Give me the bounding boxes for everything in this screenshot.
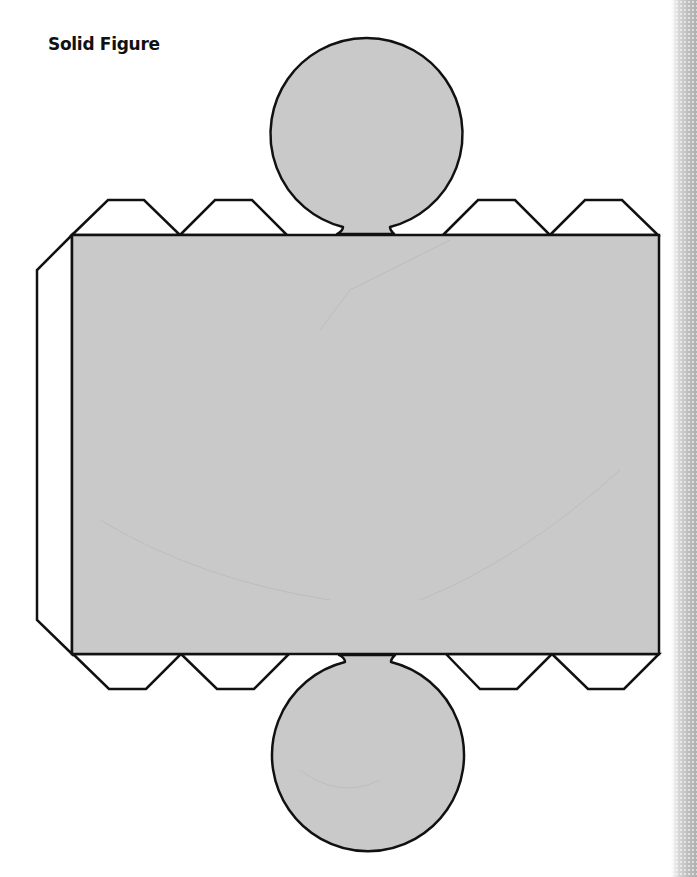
top-circle-face: [271, 38, 463, 234]
top-tab-2: [180, 200, 287, 235]
bottom-tab-2: [181, 654, 289, 689]
side-glue-tab: [37, 235, 72, 654]
lateral-surface-rectangle: [72, 235, 659, 654]
bottom-tab-4: [552, 654, 659, 689]
cylinder-net-diagram: [0, 0, 697, 877]
top-tab-4: [550, 200, 658, 235]
bottom-circle-face: [272, 655, 464, 851]
top-tab-3: [443, 200, 550, 235]
bottom-tab-3: [446, 654, 552, 689]
halftone-edge-strip: [671, 0, 697, 877]
top-tab-1: [72, 200, 180, 235]
bottom-tab-1: [73, 654, 181, 689]
